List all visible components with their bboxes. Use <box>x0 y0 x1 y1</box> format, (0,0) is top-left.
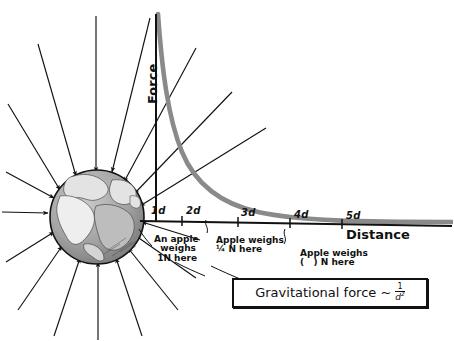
x-axis-label: Distance <box>346 228 410 242</box>
x-tick-3d: 3d <box>241 208 256 219</box>
formula-denominator: d2 <box>395 291 404 302</box>
formula-lead: Gravitational force ~ <box>255 285 391 300</box>
inverse-square-curve <box>158 14 452 222</box>
axis-lines <box>140 14 452 226</box>
x-tick-2d: 2d <box>186 206 201 217</box>
x-tick-1d: 1d <box>151 206 166 217</box>
formula-exponent: 2 <box>401 291 405 297</box>
formula-text: Gravitational force ~1d2 <box>255 284 405 303</box>
annotation-2d: Apple weighs ¼ N here <box>216 236 284 255</box>
x-tick-4d: 4d <box>294 210 309 221</box>
gravitational-field-lines <box>2 16 266 340</box>
formula-box: Gravitational force ~1d2 <box>232 278 428 308</box>
gravitation-diagram: Force Distance 1d 2d 3d 4d 5d An apple w… <box>0 0 454 341</box>
annotation-1d: An apple weighs 1N here <box>154 235 199 263</box>
earth-globe <box>50 170 144 264</box>
formula-fraction: 1d2 <box>395 283 404 302</box>
x-tick-5d: 5d <box>346 211 361 222</box>
formula-numerator: 1 <box>398 283 403 291</box>
annotation-4d: Apple weighs ( ) N here <box>300 249 368 268</box>
y-axis-label: Force <box>146 64 160 104</box>
